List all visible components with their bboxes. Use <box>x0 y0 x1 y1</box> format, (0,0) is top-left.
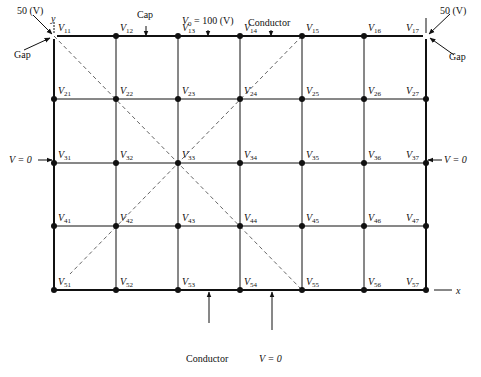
node-v53 <box>175 287 181 293</box>
node-v34 <box>237 160 243 166</box>
node-label-v47: V47 <box>406 212 420 225</box>
node-v12 <box>113 33 119 39</box>
node-v52 <box>113 287 119 293</box>
node-label-v32: V32 <box>120 149 134 162</box>
node-v42 <box>113 223 119 229</box>
node-label-v12: V12 <box>120 22 134 35</box>
node-label-v54: V54 <box>244 276 258 289</box>
node-v21 <box>51 96 57 102</box>
right-boundary-label: V = 0 <box>444 154 467 165</box>
node-v33 <box>175 160 181 166</box>
node-label-v11: V11 <box>58 22 71 35</box>
node-v47 <box>423 223 429 229</box>
node-label-v51: V51 <box>58 276 72 289</box>
node-label-v25: V25 <box>306 85 320 98</box>
node-label-v57: V57 <box>406 276 420 289</box>
node-v46 <box>361 223 367 229</box>
node-label-v36: V36 <box>368 149 382 162</box>
node-label-v17: V17 <box>406 22 420 35</box>
node-v55 <box>299 287 305 293</box>
node-v23 <box>175 96 181 102</box>
node-v22 <box>113 96 119 102</box>
gap-right-label: Gap <box>449 51 466 62</box>
node-v32 <box>113 160 119 166</box>
node-v37 <box>423 160 429 166</box>
bottom-boundary-label: V = 0 <box>259 353 282 364</box>
node-v26 <box>361 96 367 102</box>
left-boundary-label: V = 0 <box>9 154 32 165</box>
node-label-v46: V46 <box>368 212 382 225</box>
node-label-v52: V52 <box>120 276 134 289</box>
node-label-v33: V33 <box>182 149 196 162</box>
finite-difference-grid-diagram: y x V11V12V13V14V15V16V17V21V22V23V24V25… <box>0 0 481 377</box>
v0-label: V0 = 100 (V) <box>182 15 234 28</box>
node-v54 <box>237 287 243 293</box>
top-left-voltage-label: 50 (V) <box>17 5 43 17</box>
node-v36 <box>361 160 367 166</box>
conductor-top-label: Conductor <box>248 17 291 28</box>
node-label-v27: V27 <box>406 85 420 98</box>
node-label-v56: V56 <box>368 276 382 289</box>
conductor-bottom-label: Conductor <box>186 353 229 364</box>
node-label-v31: V31 <box>58 149 72 162</box>
node-v35 <box>299 160 305 166</box>
node-label-v37: V37 <box>406 149 420 162</box>
node-label-v41: V41 <box>58 212 72 225</box>
node-v25 <box>299 96 305 102</box>
node-label-v44: V44 <box>244 212 258 225</box>
gap-left-arrow-icon <box>33 15 52 34</box>
node-v51 <box>51 287 57 293</box>
x-axis-label: x <box>455 285 461 296</box>
node-label-v55: V55 <box>306 276 320 289</box>
node-label-v23: V23 <box>182 85 196 98</box>
node-label-v26: V26 <box>368 85 382 98</box>
node-label-v34: V34 <box>244 149 258 162</box>
node-v24 <box>237 96 243 102</box>
node-v13 <box>175 33 181 39</box>
node-v45 <box>299 223 305 229</box>
gap-left-label: Gap <box>14 49 31 60</box>
node-label-v15: V15 <box>306 22 320 35</box>
y-axis-label: y <box>50 13 56 24</box>
node-label-v16: V16 <box>368 22 382 35</box>
node-v56 <box>361 287 367 293</box>
node-label-v24: V24 <box>244 85 258 98</box>
node-label-v53: V53 <box>182 276 196 289</box>
node-label-v43: V43 <box>182 212 196 225</box>
node-v31 <box>51 160 57 166</box>
node-v43 <box>175 223 181 229</box>
node-v41 <box>51 223 57 229</box>
node-v44 <box>237 223 243 229</box>
node-v57 <box>423 287 429 293</box>
node-v16 <box>361 33 367 39</box>
grid-node-labels: V11V12V13V14V15V16V17V21V22V23V24V25V26V… <box>58 22 420 289</box>
annotation-arrows <box>24 14 454 330</box>
top-right-voltage-label: 50 (V) <box>440 5 466 17</box>
node-label-v42: V42 <box>120 212 134 225</box>
voltage-right-arrow-icon <box>429 14 450 34</box>
node-label-v21: V21 <box>58 85 72 98</box>
node-v15 <box>299 33 305 39</box>
node-label-v45: V45 <box>306 212 320 225</box>
node-label-v22: V22 <box>120 85 134 98</box>
node-v27 <box>423 96 429 102</box>
node-v14 <box>237 33 243 39</box>
cap-label: Cap <box>137 9 153 20</box>
node-label-v35: V35 <box>306 149 320 162</box>
